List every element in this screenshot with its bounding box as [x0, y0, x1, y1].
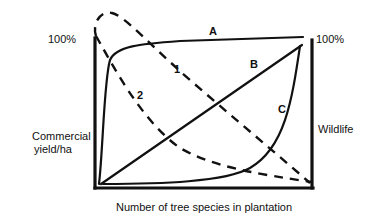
curve-a-label: A: [209, 25, 217, 37]
curve-c-label: C: [278, 103, 286, 115]
left-axis-title-line1: Commercial: [32, 130, 91, 143]
right-axis-max-label: 100%: [316, 33, 344, 46]
curve-b-label: B: [250, 58, 258, 70]
curves: [95, 13, 311, 184]
left-axis-max-label: 100%: [48, 33, 76, 46]
x-axis-title: Number of tree species in plantation: [116, 201, 292, 214]
curve-2-label: 2: [137, 89, 143, 101]
curve-1-label: 1: [174, 63, 180, 75]
curve-a: [99, 37, 303, 184]
left-axis-title: Commercial yield/ha: [32, 130, 91, 156]
right-axis-title: Wildlife: [318, 123, 353, 136]
left-axis-title-line2: yield/ha: [32, 143, 91, 156]
curve-b: [101, 45, 302, 184]
